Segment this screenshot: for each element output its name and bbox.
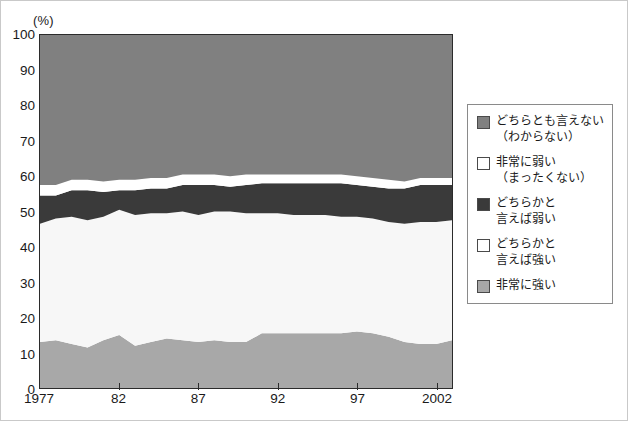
x-tick-label: 92 [270, 391, 285, 406]
plot-svg [40, 35, 452, 388]
y-axis-labels: 0102030405060708090100 [1, 34, 35, 389]
x-tick-label: 82 [111, 391, 126, 406]
x-axis-labels: 1977828792972002 [39, 391, 453, 417]
legend-swatch-icon [477, 198, 490, 211]
legend-label: どちらかと 言えば強い [496, 237, 556, 269]
x-tick-label: 2002 [422, 391, 452, 406]
legend-label: どちらとも言えない （わからない） [496, 114, 604, 146]
stacked-area-chart: (%) 0102030405060708090100 1977828792972… [1, 1, 628, 421]
plot-area [39, 34, 453, 389]
y-tick-label: 100 [12, 27, 35, 42]
area-band [40, 210, 452, 348]
y-tick-label: 90 [20, 62, 35, 77]
x-tick-mark [437, 383, 438, 390]
y-axis-unit-label: (%) [33, 13, 54, 28]
x-tick-mark [357, 383, 358, 390]
legend-swatch-icon [477, 157, 490, 170]
legend-label: 非常に弱い （まったくない） [496, 155, 592, 187]
legend-very-weak: 非常に弱い （まったくない） [477, 155, 604, 187]
x-tick-label: 87 [191, 391, 206, 406]
y-tick-label: 70 [20, 133, 35, 148]
legend-very-strong: 非常に強い [477, 278, 604, 294]
y-tick-label: 60 [20, 169, 35, 184]
y-tick-label: 40 [20, 240, 35, 255]
y-tick-label: 80 [20, 98, 35, 113]
x-tick-label: 97 [350, 391, 365, 406]
legend-label: 非常に強い [496, 278, 556, 294]
figure-root: (%) 0102030405060708090100 1977828792972… [0, 0, 628, 421]
y-tick-label: 20 [20, 311, 35, 326]
legend-somewhat-strong: どちらかと 言えば強い [477, 237, 604, 269]
legend-somewhat-weak: どちらかと 言えば弱い [477, 196, 604, 228]
area-band [40, 35, 452, 185]
y-tick-label: 50 [20, 204, 35, 219]
x-tick-mark [278, 383, 279, 390]
legend-swatch-icon [477, 116, 490, 129]
y-tick-label: 30 [20, 275, 35, 290]
x-tick-label: 1977 [24, 391, 54, 406]
x-tick-mark [198, 383, 199, 390]
x-tick-mark [119, 383, 120, 390]
legend-swatch-icon [477, 280, 490, 293]
chart-legend: どちらとも言えない （わからない）非常に弱い （まったくない）どちらかと 言えば… [467, 104, 613, 304]
legend-label: どちらかと 言えば弱い [496, 196, 556, 228]
legend-dontknow: どちらとも言えない （わからない） [477, 114, 604, 146]
y-tick-label: 10 [20, 346, 35, 361]
legend-swatch-icon [477, 239, 490, 252]
legend-list: どちらとも言えない （わからない）非常に弱い （まったくない）どちらかと 言えば… [477, 114, 604, 294]
